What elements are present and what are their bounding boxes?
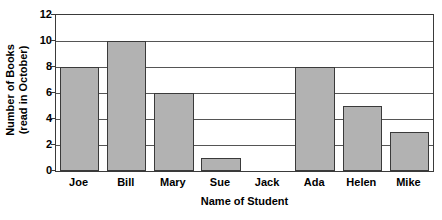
bar bbox=[343, 106, 383, 171]
bars-layer bbox=[56, 15, 433, 171]
y-axis-title: Number of Books (read in October) bbox=[0, 0, 34, 180]
x-axis-tick-label: Jack bbox=[244, 175, 291, 189]
plot-area bbox=[55, 14, 434, 172]
bar bbox=[107, 41, 147, 171]
y-axis-tick-labels: 024681012 bbox=[30, 14, 52, 172]
y-axis-tick-label: 2 bbox=[30, 139, 52, 150]
y-axis-tick-label: 0 bbox=[30, 165, 52, 176]
y-axis-tick-label: 8 bbox=[30, 61, 52, 72]
x-axis-title: Name of Student bbox=[55, 195, 434, 207]
bar bbox=[390, 132, 430, 171]
bar-slot bbox=[292, 15, 339, 171]
bar-slot bbox=[386, 15, 433, 171]
bar-chart: Number of Books (read in October) 024681… bbox=[0, 0, 442, 220]
x-axis-tick-label: Joe bbox=[55, 175, 102, 189]
x-axis-tick-labels: JoeBillMarySueJackAdaHelenMike bbox=[55, 175, 434, 191]
bar-slot bbox=[150, 15, 197, 171]
y-axis-tick-mark bbox=[51, 170, 55, 171]
y-axis-tick-label: 10 bbox=[30, 35, 52, 46]
y-axis-tick-label: 12 bbox=[30, 9, 52, 20]
y-axis-title-line-2: (read in October) bbox=[17, 44, 30, 136]
bar-slot bbox=[56, 15, 103, 171]
x-axis-tick-label: Bill bbox=[102, 175, 149, 189]
bar bbox=[295, 67, 335, 171]
y-axis-title-line-1: Number of Books bbox=[4, 44, 16, 136]
y-axis-tick-mark bbox=[51, 66, 55, 67]
x-axis-tick-label: Mike bbox=[385, 175, 432, 189]
bar bbox=[201, 158, 241, 171]
x-axis-tick-label: Sue bbox=[196, 175, 243, 189]
x-axis-tick-label: Mary bbox=[149, 175, 196, 189]
y-axis-tick-mark bbox=[51, 118, 55, 119]
y-axis-tick-label: 6 bbox=[30, 87, 52, 98]
x-axis-tick-label: Helen bbox=[338, 175, 385, 189]
y-axis-tick-mark bbox=[51, 92, 55, 93]
bar-slot bbox=[103, 15, 150, 171]
bar-slot bbox=[245, 15, 292, 171]
bar bbox=[60, 67, 100, 171]
bar bbox=[154, 93, 194, 171]
y-axis-tick-mark bbox=[51, 14, 55, 15]
bar-slot bbox=[339, 15, 386, 171]
y-axis-tick-label: 4 bbox=[30, 113, 52, 124]
bar-slot bbox=[197, 15, 244, 171]
y-axis-tick-mark bbox=[51, 144, 55, 145]
x-axis-tick-label: Ada bbox=[291, 175, 338, 189]
y-axis-tick-mark bbox=[51, 40, 55, 41]
